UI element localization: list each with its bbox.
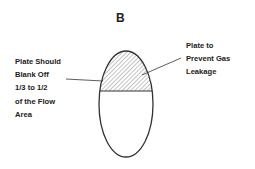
right-annotation-line: Plate to: [186, 39, 230, 52]
left-annotation-line: 1/3 to 1/2: [15, 81, 61, 94]
right-annotation-line: Prevent Gas: [186, 52, 230, 65]
right-annotation: Plate to Prevent Gas Leakage: [186, 39, 230, 79]
left-annotation-line: Blank Off: [15, 68, 61, 81]
left-leader-line: [66, 79, 103, 81]
right-leader-line: [142, 58, 181, 75]
left-annotation-line: Area: [15, 108, 61, 121]
left-annotation: Plate Should Blank Off 1/3 to 1/2 of the…: [15, 55, 61, 121]
left-annotation-line: of the Flow: [15, 95, 61, 108]
right-annotation-line: Leakage: [186, 65, 230, 78]
left-annotation-line: Plate Should: [15, 55, 61, 68]
